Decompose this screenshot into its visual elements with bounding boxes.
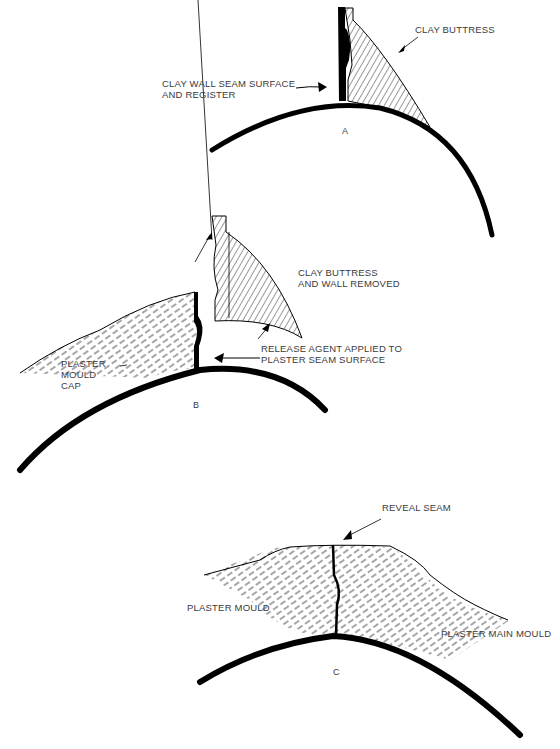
label-plaster-cap-line2: MOULD <box>61 369 96 380</box>
panel-b <box>20 0 325 470</box>
form-arc-a <box>212 106 492 235</box>
label-plaster-cap-line1: PLASTER <box>61 358 106 369</box>
label-reveal-seam: REVEAL SEAM <box>382 502 451 513</box>
label-clay-wall-seam-line2: AND REGISTER <box>162 89 236 100</box>
plaster-mould-cap-shape <box>20 292 197 378</box>
label-release-agent-line1: RELEASE AGENT APPLIED TO <box>261 343 402 354</box>
label-release-agent-line2: PLASTER SEAM SURFACE <box>261 354 385 365</box>
label-buttress-removed-line2: AND WALL REMOVED <box>298 278 400 289</box>
label-plaster-main-mould: PLASTER MAIN MOULD <box>441 628 551 639</box>
removed-buttress-shape <box>212 216 302 338</box>
panel-letter-a: A <box>342 126 348 136</box>
label-plaster-cap-line3: CAP <box>61 380 81 391</box>
label-buttress-removed-line1: CLAY BUTTRESS <box>298 267 378 278</box>
label-clay-buttress: CLAY BUTTRESS <box>415 24 495 35</box>
panel-letter-c: C <box>333 667 340 677</box>
label-plaster-mould: PLASTER MOULD <box>187 602 270 613</box>
panel-letter-b: B <box>193 400 199 410</box>
panel-c <box>200 519 520 735</box>
panel-a <box>212 7 492 235</box>
form-arc-c <box>200 636 520 735</box>
label-clay-wall-seam-line1: CLAY WALL SEAM SURFACE <box>162 78 295 89</box>
